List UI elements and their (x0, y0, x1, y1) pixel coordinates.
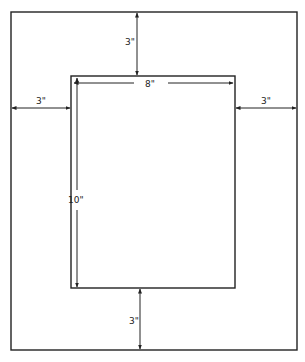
bottom-border-label: 3" (129, 316, 139, 326)
left-border-label: 3" (36, 96, 46, 106)
opening-width-label: 8" (145, 79, 155, 89)
mat-dimension-diagram: 3" 3" 3" 3" 8" 10" (0, 0, 305, 362)
top-border-label: 3" (125, 37, 135, 47)
right-border-label: 3" (261, 96, 271, 106)
inner-opening (71, 76, 235, 288)
outer-mat-border (11, 12, 297, 350)
opening-height-label: 10" (68, 195, 84, 205)
